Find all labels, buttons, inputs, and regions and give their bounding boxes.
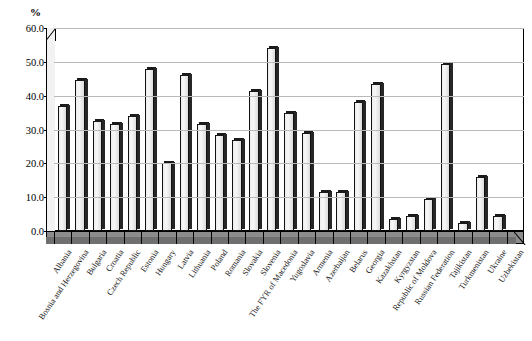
x-axis-labels: AlbaniaBosnia and HerzegovinaBulgariaCro… [0, 0, 532, 341]
bar-chart: % 0.010.020.030.040.050.060.0 AlbaniaBos… [0, 0, 532, 341]
